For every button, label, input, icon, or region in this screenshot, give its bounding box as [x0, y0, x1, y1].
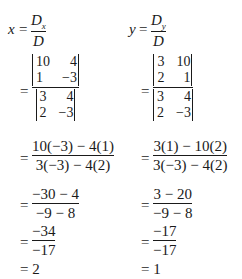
variable-y: y [129, 22, 136, 37]
equals-sign: = [20, 151, 28, 166]
matrix-cell: −3 [62, 70, 77, 86]
simplify-denominator: −9 − 8 [153, 205, 192, 221]
matrix-cell: 4 [176, 89, 191, 105]
dx-over-d-fraction: Dx D [31, 12, 46, 49]
reduced-numerator: −17 [153, 223, 176, 239]
equals-sign: = [141, 84, 149, 99]
dx-determinant: 10 4 1 −3 [32, 54, 79, 86]
fraction-bar [153, 203, 192, 204]
matrix-cell: 1 [36, 70, 50, 86]
reduced-fraction-y: −17 −17 [153, 223, 176, 258]
equals-sign: = [19, 22, 27, 37]
reduced-denominator: −17 [153, 242, 176, 258]
dx-subscript: x [42, 21, 46, 31]
expansion-numerator: 3(1) − 10(2) [153, 138, 226, 154]
matrix-cell: 3 [40, 89, 47, 105]
reduced-numerator: −34 [32, 223, 55, 239]
matrix-cell: 1 [176, 70, 190, 86]
matrix-cell: 10 [36, 54, 50, 70]
expansion-denominator: 3(−3) − 4(2) [36, 157, 110, 173]
determinant-fraction-x: 10 4 1 −3 3 4 2 −3 [32, 54, 79, 121]
matrix-cell: −3 [59, 105, 74, 121]
result-x: = 2 [20, 262, 40, 277]
dy-determinant: 3 10 2 1 [153, 54, 192, 86]
matrix-cell: 2 [157, 70, 164, 86]
expansion-fraction-y: 3(1) − 10(2) 3(−3) − 4(2) [153, 138, 227, 173]
matrix-cell: 10 [176, 54, 190, 70]
matrix-cell: 3 [157, 54, 164, 70]
d-symbol: D [153, 33, 164, 49]
fraction-bar [151, 31, 166, 32]
reduced-fraction-x: −34 −17 [32, 223, 55, 258]
expansion-numerator: 10(−3) − 4(1) [32, 138, 114, 154]
fraction-bar [32, 240, 55, 241]
simplify-fraction-x: −30 − 4 −9 − 8 [32, 186, 79, 221]
matrix-cell: 2 [40, 105, 47, 121]
matrix-cell: 4 [59, 89, 74, 105]
matrix-cell: 4 [62, 54, 77, 70]
dy-subscript: y [162, 21, 166, 31]
simplify-numerator: −30 − 4 [32, 186, 79, 202]
result-y: = 1 [141, 262, 161, 277]
d-determinant: 3 4 2 −3 [153, 89, 193, 121]
equals-sign: = [20, 84, 28, 99]
variable-x: x [8, 22, 15, 37]
determinant-fraction-y: 3 10 2 1 3 4 2 −3 [153, 54, 193, 121]
fraction-bar [32, 87, 79, 88]
simplify-fraction-y: 3 − 20 −9 − 8 [153, 186, 192, 221]
d-symbol: D [33, 33, 44, 49]
fraction-bar [153, 87, 193, 88]
dx-symbol: D [31, 12, 42, 28]
equals-sign: = [141, 151, 149, 166]
equals-sign: = [139, 22, 147, 37]
simplify-denominator: −9 − 8 [36, 205, 75, 221]
expansion-fraction-x: 10(−3) − 4(1) 3(−3) − 4(2) [32, 138, 114, 173]
equals-sign: = [141, 198, 149, 213]
fraction-bar [32, 155, 114, 156]
matrix-cell: −3 [176, 105, 191, 121]
dy-over-d-fraction: Dy D [151, 12, 166, 49]
d-determinant: 3 4 2 −3 [36, 89, 76, 121]
equals-sign: = [141, 235, 149, 250]
fraction-bar [153, 240, 176, 241]
matrix-cell: 2 [157, 105, 164, 121]
fraction-bar [31, 31, 46, 32]
equals-sign: = [20, 198, 28, 213]
fraction-bar [153, 155, 227, 156]
reduced-denominator: −17 [32, 242, 55, 258]
matrix-cell: 3 [157, 89, 164, 105]
equals-sign: = [20, 235, 28, 250]
dy-symbol: D [151, 12, 162, 28]
expansion-denominator: 3(−3) − 4(2) [153, 157, 227, 173]
fraction-bar [32, 203, 79, 204]
simplify-numerator: 3 − 20 [153, 186, 191, 202]
